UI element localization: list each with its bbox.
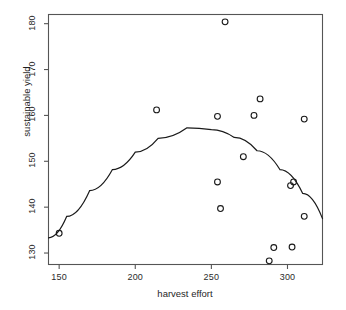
x-tick-label: 300 xyxy=(276,272,298,282)
x-axis-title: harvest effort xyxy=(48,288,322,299)
y-tick-label: 150 xyxy=(27,149,37,171)
plot-canvas xyxy=(0,0,346,310)
y-tick-label: 140 xyxy=(27,195,37,217)
x-tick-label: 200 xyxy=(124,272,146,282)
x-tick-label: 250 xyxy=(200,272,222,282)
figure-background xyxy=(0,0,346,310)
y-axis-title: sustainable yield xyxy=(21,52,32,152)
x-tick-label: 150 xyxy=(48,272,70,282)
scatter-plot-figure: 150200250300 130140150160170180 sustaina… xyxy=(0,0,346,310)
y-tick-label: 180 xyxy=(27,12,37,34)
y-tick-label: 130 xyxy=(27,241,37,263)
